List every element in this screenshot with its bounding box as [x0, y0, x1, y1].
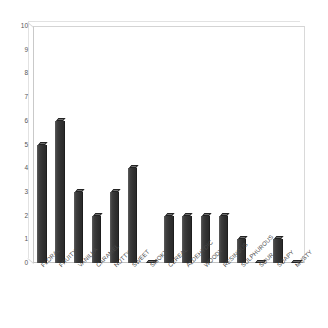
y-tick-label: 6: [24, 118, 28, 125]
bar-slot: [237, 26, 246, 263]
bar-slot: [201, 26, 210, 263]
y-tick-label: 2: [24, 212, 28, 219]
bar-top-face: [165, 213, 175, 216]
bar-floral[interactable]: [37, 145, 46, 264]
bar-slot: [55, 26, 64, 263]
bar-chart: 012345678910 FLORALFRUITYVANILLACARAMELN…: [0, 0, 328, 328]
bar-top-face: [56, 118, 66, 121]
x-axis-labels: FLORALFRUITYVANILLACARAMELNUTTYSWEETSMOK…: [33, 264, 305, 328]
bar-top-face: [274, 236, 284, 239]
y-tick-label: 1: [24, 236, 28, 243]
bar-slot: [182, 26, 191, 263]
bar-slot: [273, 26, 282, 263]
bar-slot: [219, 26, 228, 263]
bar-top-face: [238, 236, 248, 239]
y-tick-label: 3: [24, 189, 28, 196]
bar-slot: [92, 26, 101, 263]
bar-slot: [146, 26, 155, 263]
y-tick-label: 10: [21, 23, 28, 30]
bar-top-face: [220, 213, 230, 216]
bar-slot: [128, 26, 137, 263]
bar-slot: [164, 26, 173, 263]
bar-slot: [110, 26, 119, 263]
bar-cereal[interactable]: [164, 216, 173, 263]
bar-sweet[interactable]: [128, 168, 137, 263]
bar-top-face: [183, 213, 193, 216]
y-tick-label: 4: [24, 165, 28, 172]
bar-top-face: [202, 213, 212, 216]
y-tick-label: 5: [24, 141, 28, 148]
y-tick-label: 9: [24, 46, 28, 53]
y-tick-label: 7: [24, 94, 28, 101]
bar-resinous[interactable]: [219, 216, 228, 263]
bar-top-face: [38, 142, 48, 145]
bar-slot: [74, 26, 83, 263]
y-axis: 012345678910: [0, 0, 33, 328]
bar-aldehydic[interactable]: [182, 216, 191, 263]
bar-top-face: [93, 213, 103, 216]
bar-top-face: [75, 189, 85, 192]
bars-layer: [33, 26, 305, 263]
bar-slot: [291, 26, 300, 263]
bar-slot: [255, 26, 264, 263]
bar-slot: [37, 26, 46, 263]
y-tick-label: 0: [24, 260, 28, 267]
bar-top-face: [129, 165, 139, 168]
bar-top-face: [111, 189, 121, 192]
bar-fruity[interactable]: [55, 121, 64, 263]
y-tick-label: 8: [24, 70, 28, 77]
